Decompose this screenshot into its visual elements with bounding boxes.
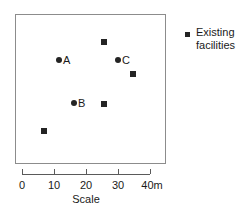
scale-bar-axis <box>22 174 150 175</box>
legend-item-label: Existingfacilities <box>196 26 248 52</box>
data-point-site-a <box>56 57 62 63</box>
scale-tick-label-10: 10 <box>48 179 60 191</box>
data-point-existing-facility <box>101 101 107 107</box>
data-point-label-a: A <box>63 55 70 66</box>
scale-tick-40 <box>150 169 151 174</box>
scale-tick-label-20: 20 <box>80 179 92 191</box>
data-point-existing-facility <box>130 71 136 77</box>
data-point-site-c <box>115 57 121 63</box>
scale-tick-10 <box>54 169 55 174</box>
data-point-label-c: C <box>122 55 130 66</box>
scale-tick-label-0: 0 <box>19 179 25 191</box>
data-point-label-b: B <box>78 98 85 109</box>
data-point-existing-facility <box>41 128 47 134</box>
legend-item-label-line1: Existing <box>196 26 235 38</box>
legend-square-icon <box>185 32 190 37</box>
scale-tick-0 <box>22 169 23 174</box>
legend-item-label-line2: facilities <box>196 39 248 52</box>
axis-title-scale: Scale <box>0 193 172 205</box>
scale-tick-label-40m: 40m <box>141 179 162 191</box>
scatter-plot-figure: A C B 0 10 20 30 40m Scale Existingfacil… <box>0 0 250 213</box>
scale-tick-30 <box>118 169 119 174</box>
scale-tick-20 <box>86 169 87 174</box>
data-point-existing-facility <box>101 39 107 45</box>
scale-tick-label-30: 30 <box>112 179 124 191</box>
plot-area <box>15 14 166 164</box>
data-point-site-b <box>71 100 77 106</box>
